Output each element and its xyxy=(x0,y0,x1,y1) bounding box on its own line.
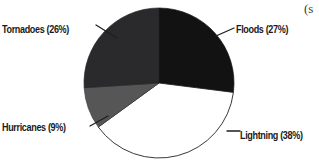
leader-line-floods xyxy=(216,28,234,36)
pie-label-tornadoes: Tornadoes (26%) xyxy=(2,24,69,35)
pie-chart-figure: Tornadoes (26%) Floods (27%) Hurricanes … xyxy=(0,0,319,162)
cropped-caption-fragment: (s xyxy=(304,1,319,17)
pie-label-floods: Floods (27%) xyxy=(236,24,288,35)
pie-label-lightning: Lightning (38%) xyxy=(240,130,303,141)
pie-slice-floods[interactable] xyxy=(159,8,234,92)
pie-label-hurricanes: Hurricanes (9%) xyxy=(2,122,66,133)
pie-slice-tornadoes[interactable] xyxy=(84,8,159,88)
